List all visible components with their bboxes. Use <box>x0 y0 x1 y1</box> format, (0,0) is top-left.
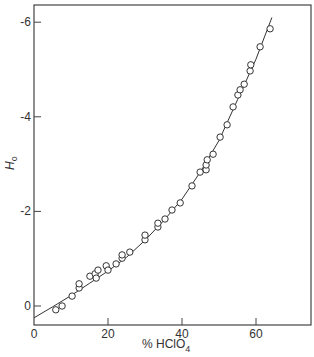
fitted-curve <box>34 18 272 318</box>
x-axis-title-main: % HClO <box>142 337 185 351</box>
data-point <box>224 122 230 128</box>
y-axis-title-sub: o <box>9 156 19 161</box>
data-point <box>93 275 99 281</box>
data-point <box>267 26 273 32</box>
y-axis-title-main: H <box>3 161 17 170</box>
data-point <box>127 249 133 255</box>
data-point <box>217 134 223 140</box>
data-point <box>197 169 203 175</box>
y-tick-label: -6 <box>20 15 31 29</box>
data-point <box>76 281 82 287</box>
x-tick-label: 20 <box>101 327 115 341</box>
data-point <box>177 200 183 206</box>
data-point <box>241 81 247 87</box>
data-point <box>142 232 148 238</box>
data-point <box>69 293 75 299</box>
data-point <box>105 267 111 273</box>
x-tick-label: 0 <box>31 327 38 341</box>
y-tick-label: -4 <box>20 110 31 124</box>
y-axis-ticks: 0-2-4-6 <box>20 15 41 313</box>
data-point <box>53 307 59 313</box>
chart: 0204060 0-2-4-6 % HClO4 Ho <box>0 0 314 357</box>
data-point <box>59 303 65 309</box>
plot-frame <box>34 5 311 325</box>
y-tick-label: 0 <box>24 299 31 313</box>
data-point <box>257 44 263 50</box>
y-tick-label: -2 <box>20 204 31 218</box>
data-point <box>169 207 175 213</box>
data-point <box>119 252 125 258</box>
data-point <box>204 157 210 163</box>
x-axis-title-sub: 4 <box>185 344 190 354</box>
y-axis-title: Ho <box>3 156 19 170</box>
data-point <box>210 151 216 157</box>
x-axis-title: % HClO4 <box>142 337 190 354</box>
data-point <box>95 267 101 273</box>
data-point <box>237 87 243 93</box>
data-point <box>248 62 254 68</box>
data-point <box>189 183 195 189</box>
data-point <box>162 216 168 222</box>
data-point <box>247 68 253 74</box>
data-points <box>53 26 274 313</box>
data-point <box>113 261 119 267</box>
data-point <box>155 220 161 226</box>
x-tick-label: 60 <box>249 327 263 341</box>
data-point <box>230 104 236 110</box>
